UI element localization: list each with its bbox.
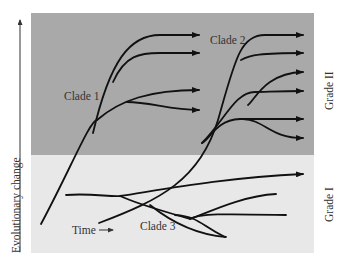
grade-ii-label: Grade II [323,71,335,110]
time-label: Time [72,224,96,236]
y-axis-label: Evolutionary change [10,158,23,253]
clade-1-label: Clade 1 [64,90,100,102]
grade-i-region [31,155,314,253]
phylogeny-diagram: Clade 1 Clade 2 Clade 3 Time Evolutionar… [0,0,351,266]
grade-i-label: Grade I [323,187,335,222]
clade-2-label: Clade 2 [210,34,246,46]
clade-3-label: Clade 3 [140,220,176,232]
